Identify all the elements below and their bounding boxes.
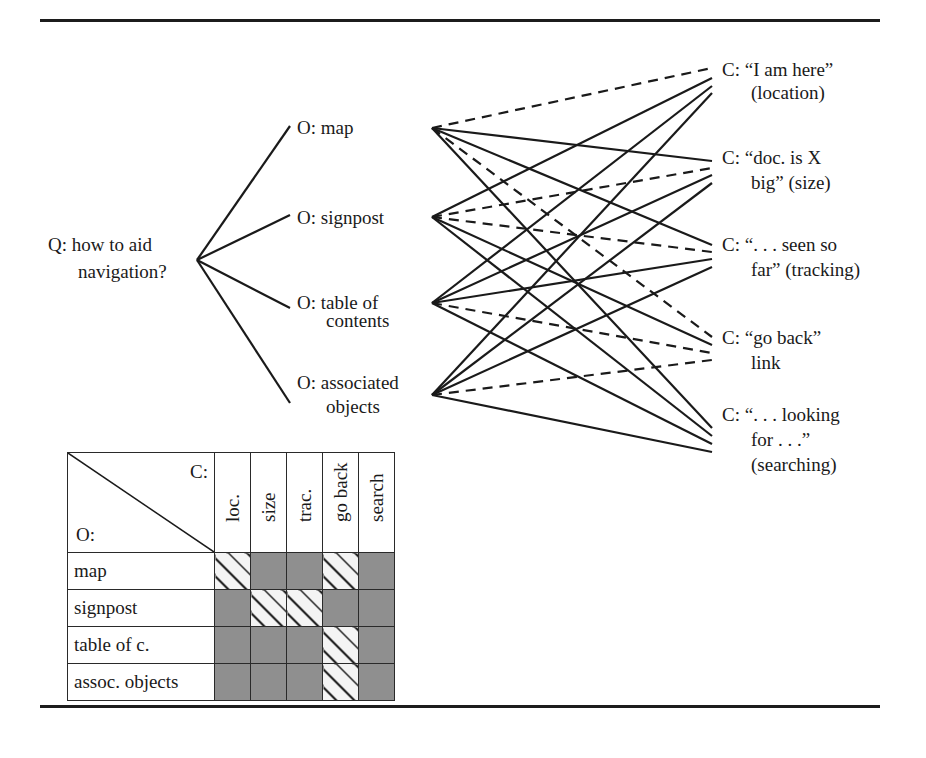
branch-map: [197, 126, 290, 260]
matrix-cell-negative: [287, 553, 323, 590]
matrix-cell-negative: [359, 553, 395, 590]
criterion-size-line-2: big” (size): [751, 171, 831, 195]
criterion-size-line-1: C: “doc. is X: [722, 146, 821, 170]
question-branches: [197, 126, 290, 403]
matrix-cell-positive: [323, 627, 359, 664]
matrix-row-label: signpost: [68, 590, 215, 627]
option-criterion-edges: [432, 68, 712, 452]
matrix-cell-negative: [359, 627, 395, 664]
criterion-goback-line-2: link: [751, 351, 781, 375]
matrix-cell-positive: [323, 664, 359, 701]
criterion-tracking-line-1: C: “. . . seen so: [722, 233, 837, 257]
criterion-location-line-2: (location): [751, 81, 825, 105]
matrix-row-label: table of c.: [68, 627, 215, 664]
matrix-col-goback: go back: [323, 453, 359, 553]
edge-signpost-trac: [432, 217, 712, 252]
matrix-cell-positive: [287, 590, 323, 627]
matrix-cell-negative: [251, 553, 287, 590]
criterion-search-line-2: for . . .”: [751, 428, 810, 452]
criterion-search-line-1: C: “. . . looking: [722, 403, 840, 427]
edge-assoc-trac: [432, 267, 712, 395]
edge-signpost-size: [432, 168, 712, 217]
option-signpost: O: signpost: [297, 206, 384, 230]
matrix-cell-negative: [215, 664, 251, 701]
edge-toc-trac: [432, 259, 712, 303]
matrix-cell-positive: [215, 553, 251, 590]
edge-toc-goback: [432, 303, 712, 353]
matrix-row: table of c.: [68, 627, 395, 664]
matrix-cell-negative: [287, 664, 323, 701]
matrix-cell-negative: [251, 664, 287, 701]
edge-map-goback: [432, 128, 712, 337]
matrix-col-label: loc.: [222, 494, 244, 522]
matrix-row-label: map: [68, 553, 215, 590]
matrix-corner: C: O:: [68, 453, 215, 553]
branch-assoc: [197, 260, 290, 403]
matrix-col-trac: trac.: [287, 453, 323, 553]
matrix-cell-negative: [359, 590, 395, 627]
matrix-cell-negative: [287, 627, 323, 664]
matrix-cell-negative: [251, 627, 287, 664]
matrix-cell-negative: [215, 590, 251, 627]
criterion-location-line-1: C: “I am here”: [722, 58, 833, 82]
edge-assoc-goback: [432, 360, 712, 395]
edge-assoc-loc: [432, 93, 712, 395]
assessment-matrix: C: O: loc. size trac. go back search map…: [67, 452, 395, 701]
matrix-row: signpost: [68, 590, 395, 627]
matrix-cell-negative: [215, 627, 251, 664]
matrix-row-label: assoc. objects: [68, 664, 215, 701]
matrix-cell-negative: [323, 590, 359, 627]
matrix-col-loc: loc.: [215, 453, 251, 553]
qoc-diagram: Q: how to aid navigation? O: map O: sign…: [0, 0, 926, 758]
matrix-col-size: size: [251, 453, 287, 553]
matrix-col-search: search: [359, 453, 395, 553]
criterion-goback-line-1: C: “go back”: [722, 326, 821, 350]
edge-assoc-size: [432, 183, 712, 395]
option-assoc-line-1: O: associated: [297, 371, 399, 395]
matrix-col-label: search: [366, 473, 388, 522]
matrix-header-row: C: O: loc. size trac. go back search: [68, 453, 395, 553]
matrix-row: assoc. objects: [68, 664, 395, 701]
matrix-cell-positive: [251, 590, 287, 627]
option-toc-line-2: contents: [326, 309, 389, 333]
option-map: O: map: [297, 116, 353, 140]
question-line-2: navigation?: [78, 260, 167, 284]
matrix-col-label: go back: [330, 462, 352, 522]
option-assoc-line-2: objects: [326, 395, 380, 419]
matrix-col-label: size: [258, 492, 280, 522]
criterion-tracking-line-2: far” (tracking): [751, 258, 860, 282]
matrix-cell-positive: [323, 553, 359, 590]
matrix-corner-criteria-label: C:: [190, 461, 208, 483]
criterion-search-line-3: (searching): [751, 453, 836, 477]
branch-signpost: [197, 215, 290, 260]
branch-toc: [197, 260, 290, 308]
matrix-row: map: [68, 553, 395, 590]
matrix-corner-options-label: O:: [76, 524, 95, 546]
matrix-cell-negative: [359, 664, 395, 701]
edge-map-search: [432, 128, 712, 428]
matrix-col-label: trac.: [294, 489, 316, 522]
question-line-1: Q: how to aid: [48, 233, 152, 257]
